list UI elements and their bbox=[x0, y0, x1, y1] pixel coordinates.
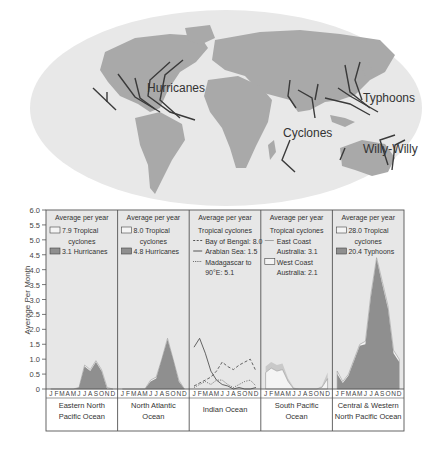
month-label: M bbox=[214, 390, 219, 397]
month-label: N bbox=[391, 390, 396, 397]
month-label: D bbox=[110, 390, 115, 397]
month-label: S bbox=[94, 390, 99, 397]
legend-text: Arabian Sea: 1.5 bbox=[205, 248, 257, 255]
legend-text: West Coast bbox=[277, 259, 313, 266]
month-label: O bbox=[242, 390, 247, 397]
legend-swatch bbox=[336, 227, 346, 233]
month-label: M bbox=[203, 390, 208, 397]
month-label: J bbox=[149, 390, 152, 397]
month-label: M bbox=[131, 390, 136, 397]
month-label: J bbox=[49, 390, 52, 397]
region-label: North Atlantic bbox=[131, 401, 176, 410]
month-label: J bbox=[77, 390, 80, 397]
month-label: J bbox=[83, 390, 86, 397]
month-label: N bbox=[105, 390, 110, 397]
month-label: J bbox=[364, 390, 367, 397]
month-label: J bbox=[192, 390, 195, 397]
month-label: F bbox=[126, 390, 130, 397]
region-label: South Pacific bbox=[275, 401, 319, 410]
month-label: A bbox=[231, 390, 236, 397]
month-label: M bbox=[71, 390, 76, 397]
y-tick-label: 1.0 bbox=[30, 355, 40, 364]
month-label: S bbox=[165, 390, 170, 397]
month-label: M bbox=[59, 390, 64, 397]
month-label: M bbox=[357, 390, 362, 397]
legend-swatch bbox=[336, 248, 346, 254]
legend-text: East Coast bbox=[277, 238, 311, 245]
month-label: J bbox=[292, 390, 295, 397]
month-label: O bbox=[314, 390, 319, 397]
y-tick-label: 5.0 bbox=[30, 236, 40, 245]
panel-header: Average per year bbox=[270, 214, 324, 222]
panel-header: Average per year bbox=[198, 214, 252, 222]
month-label: J bbox=[336, 390, 339, 397]
legend-text: Madagascar to bbox=[205, 259, 251, 267]
panel-header: Average per year bbox=[127, 214, 181, 222]
y-tick-label: 0.5 bbox=[30, 370, 40, 379]
region-label: Central & Western bbox=[338, 401, 399, 410]
y-axis: 00.51.01.52.02.53.03.54.04.55.05.56.0Ave… bbox=[23, 206, 46, 394]
month-label: D bbox=[325, 390, 330, 397]
month-label: F bbox=[341, 390, 345, 397]
month-label: M bbox=[142, 390, 147, 397]
legend-text: 4.8 Hurricanes bbox=[134, 248, 180, 255]
month-label: A bbox=[88, 390, 93, 397]
month-label: M bbox=[346, 390, 351, 397]
month-label: D bbox=[254, 390, 259, 397]
month-label: J bbox=[121, 390, 124, 397]
month-label: A bbox=[374, 390, 379, 397]
legend-text: cyclones bbox=[355, 238, 383, 246]
y-tick-label: 5.5 bbox=[30, 221, 40, 230]
month-label: M bbox=[274, 390, 279, 397]
month-label: J bbox=[298, 390, 301, 397]
month-label: F bbox=[269, 390, 273, 397]
panel-header: Average per year bbox=[55, 214, 109, 222]
month-label: N bbox=[176, 390, 181, 397]
legend-text: 7.9 Tropical bbox=[62, 227, 99, 235]
y-tick-label: 4.5 bbox=[30, 251, 40, 260]
legend-swatch bbox=[265, 259, 275, 265]
legend-text: Tropical cyclones bbox=[198, 227, 252, 235]
month-label: S bbox=[380, 390, 385, 397]
legend-text: 8.0 Tropical bbox=[134, 227, 171, 235]
region-label: Ocean bbox=[142, 412, 164, 421]
month-label: J bbox=[155, 390, 158, 397]
legend-text: cyclones bbox=[68, 238, 96, 246]
month-label: J bbox=[221, 390, 224, 397]
legend-text: Bay of Bengal: 8.0 bbox=[205, 238, 262, 246]
panel-header: Average per year bbox=[341, 214, 395, 222]
region-label: Pacific Ocean bbox=[59, 412, 105, 421]
month-label: D bbox=[182, 390, 187, 397]
cyclone-frequency-chart: 00.51.01.52.02.53.03.54.04.55.05.56.0Ave… bbox=[0, 0, 432, 452]
y-tick-label: 6.0 bbox=[30, 206, 40, 215]
y-tick-label: 1.5 bbox=[30, 340, 40, 349]
y-tick-label: 0 bbox=[36, 385, 40, 394]
region-label: Indian Ocean bbox=[203, 405, 248, 414]
legend-text: 90°E: 5.1 bbox=[205, 269, 234, 276]
month-label: F bbox=[54, 390, 58, 397]
region-label: North Pacific Ocean bbox=[335, 412, 402, 421]
region-label: Eastern North bbox=[59, 401, 105, 410]
legend-text: cyclones bbox=[140, 238, 168, 246]
month-label: M bbox=[285, 390, 290, 397]
legend-text: 28.0 Tropical bbox=[348, 227, 389, 235]
month-label: S bbox=[237, 390, 242, 397]
month-label: A bbox=[160, 390, 165, 397]
month-label: O bbox=[99, 390, 104, 397]
legend-text: Australia: 3.1 bbox=[277, 248, 318, 255]
region-label: Ocean bbox=[286, 412, 308, 421]
legend-swatch bbox=[122, 248, 132, 254]
legend-swatch bbox=[122, 227, 132, 233]
legend-swatch bbox=[50, 248, 60, 254]
legend-text: Tropical cyclones bbox=[270, 227, 324, 235]
month-label: O bbox=[171, 390, 176, 397]
legend-text: 3.1 Hurricanes bbox=[62, 248, 108, 255]
month-label: J bbox=[264, 390, 267, 397]
month-label: A bbox=[303, 390, 308, 397]
month-label: N bbox=[320, 390, 325, 397]
month-label: J bbox=[369, 390, 372, 397]
month-label: N bbox=[248, 390, 253, 397]
month-label: D bbox=[397, 390, 402, 397]
month-label: J bbox=[226, 390, 229, 397]
legend-text: Australia: 2.1 bbox=[277, 269, 318, 276]
